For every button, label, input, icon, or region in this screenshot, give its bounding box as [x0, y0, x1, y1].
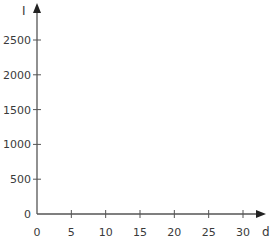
x-axis-label: d: [262, 225, 270, 239]
x-tick-label: 20: [167, 226, 181, 239]
x-axis-arrow-icon: [256, 210, 266, 218]
x-tick-label: 25: [202, 226, 216, 239]
y-tick-label: 2000: [3, 69, 31, 82]
y-tick-label: 0: [24, 208, 31, 221]
y-tick-label: 2500: [3, 34, 31, 47]
y-tick-label: 1500: [3, 104, 31, 117]
y-ticks: 05001000150020002500: [3, 34, 41, 221]
y-tick-label: 1000: [3, 138, 31, 151]
y-tick-label: 500: [10, 173, 31, 186]
x-tick-label: 0: [34, 226, 41, 239]
y-axis-arrow-icon: [33, 3, 41, 13]
y-axis-label: I: [22, 4, 26, 18]
chart: 05001000150020002500 051015202530 I d: [0, 0, 274, 245]
x-tick-label: 10: [99, 226, 113, 239]
x-tick-label: 30: [236, 226, 250, 239]
x-tick-label: 5: [68, 226, 75, 239]
x-tick-label: 15: [133, 226, 147, 239]
